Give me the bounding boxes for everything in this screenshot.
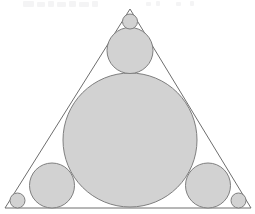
small-circle-apex <box>123 14 138 29</box>
medium-circle-bottom-left <box>30 163 75 208</box>
circle-packing-diagram <box>0 0 255 214</box>
medium-circle-top <box>107 28 153 74</box>
incircle <box>63 73 197 207</box>
small-circle-bottom-right <box>231 193 246 208</box>
figure-canvas <box>0 0 255 214</box>
medium-circle-bottom-right <box>186 163 231 208</box>
small-circle-bottom-left <box>10 193 25 208</box>
